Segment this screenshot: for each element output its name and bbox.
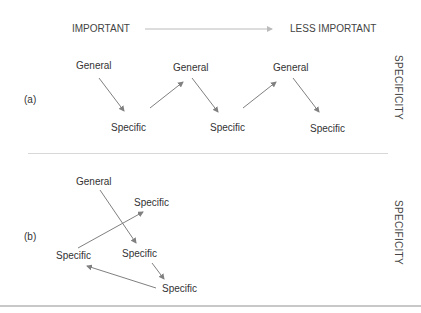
diagram-arrows	[0, 0, 421, 313]
important-label: IMPORTANT	[72, 23, 130, 35]
node-specific: Specific	[122, 248, 157, 260]
node-general: General	[76, 176, 112, 188]
panel-b-tag: (b)	[24, 231, 36, 243]
panel-a-tag: (a)	[24, 94, 36, 106]
node-specific: Specific	[210, 122, 245, 134]
node-specific: Specific	[162, 283, 197, 295]
node-specific: Specific	[111, 122, 146, 134]
node-specific: Specific	[134, 197, 169, 209]
node-general: General	[173, 62, 209, 74]
node-general: General	[273, 62, 309, 74]
bottom-rule	[0, 305, 421, 307]
node-specific: Specific	[56, 250, 91, 262]
specificity-axis-label: SPECIFICITY	[393, 200, 404, 265]
panel-divider	[28, 153, 388, 154]
node-specific: Specific	[310, 123, 345, 135]
node-general: General	[76, 60, 112, 72]
specificity-axis-label: SPECIFICITY	[393, 55, 404, 120]
less-important-label: LESS IMPORTANT	[290, 23, 376, 35]
